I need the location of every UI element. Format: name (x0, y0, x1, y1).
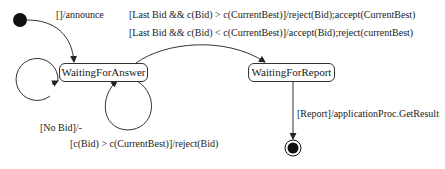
label-report: [Report]/applicationProc.GetResult (297, 108, 439, 120)
initial-state-icon (13, 13, 27, 27)
transition-to-report (136, 45, 265, 63)
label-last-bid-reject: [Last Bid && c(Bid) > c(CurrentBest)]/re… (129, 9, 415, 21)
state-waiting-for-answer: WaitingForAnswer (59, 63, 148, 82)
label-no-bid: [No Bid]/- (40, 122, 82, 134)
label-last-bid-accept: [Last Bid && c(Bid) < c(CurrentBest)]/ac… (129, 27, 413, 39)
transition-announce (27, 20, 74, 62)
state-waiting-for-report: WaitingForReport (248, 63, 335, 82)
label-reject-bid: [c(Bid) > c(CurrentBest)]/reject(Bid) (70, 138, 218, 150)
transition-reject-loop (105, 81, 151, 130)
diagram-edges (0, 0, 445, 169)
label-announce: []/announce (56, 9, 104, 21)
transition-no-bid-loop (16, 58, 58, 100)
